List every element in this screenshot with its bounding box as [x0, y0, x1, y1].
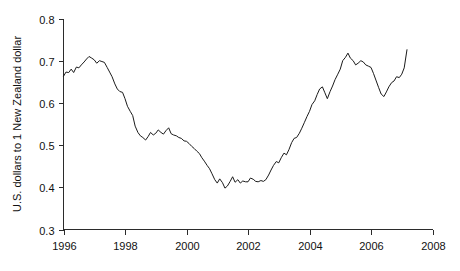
y-tick-label: 0.7: [39, 56, 54, 68]
y-tick-label: 0.4: [39, 182, 54, 194]
x-tick-label: 2006: [359, 240, 383, 252]
line-chart: 0.30.40.50.60.70.81996199820002002200420…: [0, 0, 460, 271]
x-tick-label: 2002: [236, 240, 260, 252]
data-series: [64, 50, 407, 188]
tick-labels: 0.30.40.50.60.70.81996199820002002200420…: [39, 14, 446, 252]
tick-marks: [59, 20, 434, 235]
y-tick-label: 0.8: [39, 14, 54, 26]
x-tick-label: 2004: [298, 240, 322, 252]
axis-titles: U.S. dollars to 1 New Zealand dollar: [11, 36, 23, 212]
x-tick-label: 1996: [52, 240, 76, 252]
y-tick-label: 0.6: [39, 98, 54, 110]
chart-container: 0.30.40.50.60.70.81996199820002002200420…: [0, 0, 460, 271]
y-tick-label: 0.3: [39, 225, 54, 237]
axes: [64, 19, 433, 230]
y-tick-label: 0.5: [39, 140, 54, 152]
series-line: [64, 50, 407, 188]
x-tick-label: 2008: [421, 240, 445, 252]
x-tick-label: 1998: [113, 240, 137, 252]
y-axis-title: U.S. dollars to 1 New Zealand dollar: [11, 36, 23, 212]
x-tick-label: 2000: [175, 240, 199, 252]
